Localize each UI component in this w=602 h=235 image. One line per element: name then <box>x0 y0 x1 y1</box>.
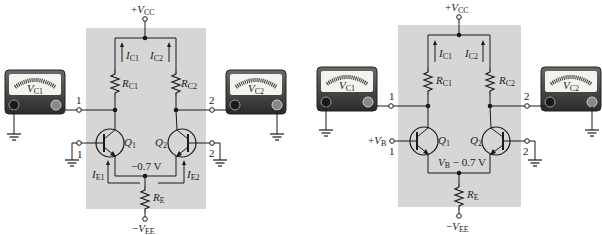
left-circuit: +VCC IC1 IC2 RC1 RC2 1 2 VC1 <box>5 3 286 235</box>
vcc-terminal <box>457 15 462 20</box>
input-1-label: 1 <box>389 145 395 157</box>
input-2-label: 2 <box>523 145 529 157</box>
ground-icon <box>585 124 599 136</box>
vcc-label: +VCC <box>131 3 155 17</box>
right-circuit: +VCC IC1 IC2 RC1 RC2 1 2 VC1 <box>317 1 601 234</box>
vee-label: −VEE <box>446 220 469 234</box>
vcc-terminal <box>143 17 148 22</box>
vee-label: −VEE <box>132 222 155 235</box>
voltmeter-vc2: VC2 <box>541 67 601 111</box>
voltmeter-vc2: VC2 <box>226 70 286 114</box>
voltmeter-vc1: VC1 <box>5 70 65 114</box>
vee-terminal <box>457 214 462 219</box>
ground-icon <box>213 154 227 166</box>
node-1-label: 1 <box>76 94 82 106</box>
node-2-label: 2 <box>524 90 530 102</box>
input-1-label: 1 <box>77 148 83 160</box>
ground-icon <box>319 124 333 136</box>
emitter-voltage-label: −0.7 V <box>131 160 162 172</box>
node-1-label: 1 <box>389 90 395 102</box>
input-2-label: 2 <box>209 147 215 159</box>
voltmeter-vc1: VC1 <box>317 67 377 111</box>
vb-input-label: +VB <box>368 134 386 148</box>
node-2-label: 2 <box>209 94 215 106</box>
vee-terminal <box>143 217 148 222</box>
ground-icon <box>7 128 21 140</box>
ground-icon <box>270 128 284 140</box>
ground-icon <box>528 154 542 166</box>
circuit-diagram: +VCC IC1 IC2 RC1 RC2 1 2 VC1 <box>0 0 602 235</box>
vcc-label: +VCC <box>445 1 469 15</box>
